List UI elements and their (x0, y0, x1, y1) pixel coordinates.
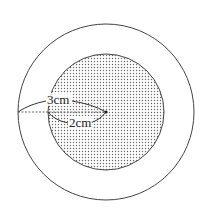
diagram-canvas: 3cm 2cm (0, 0, 204, 221)
concentric-circles-diagram: 3cm 2cm (0, 0, 204, 221)
inner-radius-label: 2cm (69, 115, 91, 130)
outer-radius-label: 3cm (47, 92, 69, 107)
